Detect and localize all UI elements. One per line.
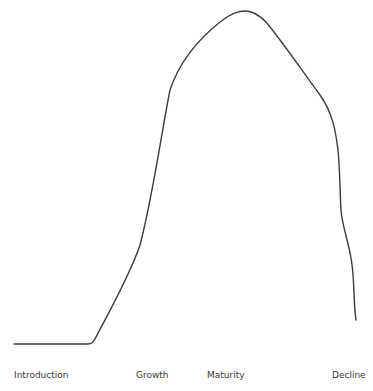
stage-label-decline: Decline (332, 370, 366, 380)
life-cycle-curve (14, 11, 356, 344)
stage-label-introduction: Introduction (14, 370, 69, 380)
stage-label-growth: Growth (136, 370, 169, 380)
stage-label-maturity: Maturity (207, 370, 245, 380)
life-cycle-curve-canvas (0, 0, 373, 391)
